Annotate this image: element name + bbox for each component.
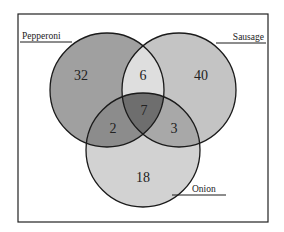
onion-label: Onion [192, 184, 216, 194]
pepperoni-label: Pepperoni [22, 31, 61, 41]
all-three-count: 7 [141, 103, 148, 118]
pepperoni-sausage-count: 6 [140, 68, 147, 83]
sausage-onion-count: 3 [171, 121, 178, 136]
sausage-label: Sausage [233, 32, 264, 42]
sausage-only-count: 40 [194, 68, 208, 83]
pepperoni-onion-count: 2 [110, 121, 117, 136]
pepperoni-only-count: 32 [74, 68, 88, 83]
venn-diagram: Pepperoni Sausage Onion 32 40 18 6 2 3 7 [0, 0, 284, 232]
onion-only-count: 18 [136, 170, 150, 185]
